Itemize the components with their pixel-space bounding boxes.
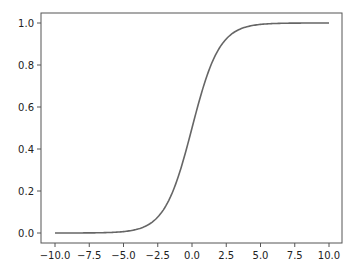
- x-tick-label: −10.0: [40, 250, 71, 261]
- y-tick-label: 0.4: [18, 144, 34, 155]
- x-tick-label: 2.5: [218, 250, 234, 261]
- y-axis: 0.00.20.40.60.81.0: [18, 18, 41, 239]
- x-tick-label: 0.0: [184, 250, 200, 261]
- y-tick-label: 0.6: [18, 102, 34, 113]
- y-tick-label: 1.0: [18, 18, 34, 29]
- x-tick-label: 5.0: [253, 250, 269, 261]
- y-tick-label: 0.2: [18, 186, 34, 197]
- x-tick-label: −5.0: [111, 250, 135, 261]
- x-tick-label: −7.5: [77, 250, 101, 261]
- x-tick-label: −2.5: [146, 250, 170, 261]
- x-tick-label: 10.0: [318, 250, 340, 261]
- sigmoid-chart: −10.0−7.5−5.0−2.50.02.55.07.510.0 0.00.2…: [0, 0, 361, 273]
- y-tick-label: 0.0: [18, 228, 34, 239]
- x-axis: −10.0−7.5−5.0−2.50.02.55.07.510.0: [40, 243, 340, 261]
- x-tick-label: 7.5: [287, 250, 303, 261]
- y-tick-label: 0.8: [18, 60, 34, 71]
